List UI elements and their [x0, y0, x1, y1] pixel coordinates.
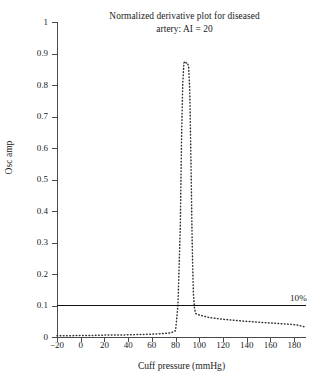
- chart-figure: Normalized derivative plot for diseased …: [0, 0, 324, 392]
- series-line: [57, 61, 306, 335]
- plot-area: [0, 0, 324, 392]
- threshold-annotation-label: 10%: [290, 294, 307, 303]
